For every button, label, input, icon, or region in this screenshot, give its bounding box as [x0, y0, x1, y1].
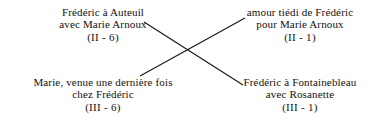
node-top-right: amour tiédi de Frédéric pour Marie Arnou…: [210, 6, 390, 43]
node-bottom-right-reference: (III - 1): [210, 101, 390, 113]
node-bottom-left: Marie, venue une dernière fois chez Fréd…: [0, 76, 206, 113]
node-bottom-right-line2: avec Rosanette: [210, 88, 390, 100]
node-bottom-right: Frédéric à Fontainebleau avec Rosanette …: [210, 76, 390, 113]
diagram-canvas: Frédéric à Auteuil avec Marie Arnoux (II…: [0, 0, 390, 122]
node-top-left-reference: (II - 6): [0, 31, 206, 43]
node-bottom-left-line2: chez Frédéric: [0, 88, 206, 100]
node-bottom-left-line1: Marie, venue une dernière fois: [0, 76, 206, 88]
node-top-right-line1: amour tiédi de Frédéric: [210, 6, 390, 18]
node-top-right-reference: (II - 1): [210, 31, 390, 43]
node-top-left-line2: avec Marie Arnoux: [0, 18, 206, 30]
node-bottom-right-line1: Frédéric à Fontainebleau: [210, 76, 390, 88]
node-top-right-line2: pour Marie Arnoux: [210, 18, 390, 30]
node-bottom-left-reference: (III - 6): [0, 101, 206, 113]
node-top-left-line1: Frédéric à Auteuil: [0, 6, 206, 18]
node-top-left: Frédéric à Auteuil avec Marie Arnoux (II…: [0, 6, 206, 43]
